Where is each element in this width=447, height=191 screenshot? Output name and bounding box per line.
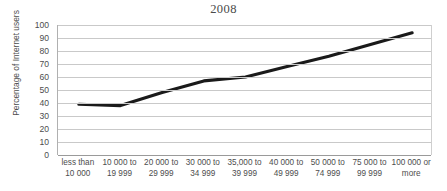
y-tick-label-50: 50 [39,86,49,95]
x-axis-tick-labels: less than 10 00010 000 to 19 99920 000 t… [57,158,432,188]
plot-area [57,25,432,155]
chart-figure: 2008 Percentage of Internet users 010203… [0,0,447,191]
gridline-70 [58,64,431,65]
gridline-30 [58,116,431,117]
y-axis-tick-labels: 0102030405060708090100 [0,25,53,155]
x-tick-label-8: 100 000 or more [382,158,440,179]
gridline-20 [58,129,431,130]
y-tick-label-70: 70 [39,60,49,69]
y-tick-label-80: 80 [39,47,49,56]
y-tick-label-40: 40 [39,99,49,108]
gridline-0 [58,155,431,156]
gridline-100 [58,25,431,26]
gridline-10 [58,142,431,143]
y-tick-label-30: 30 [39,112,49,121]
y-tick-label-60: 60 [39,73,49,82]
y-tick-label-90: 90 [39,34,49,43]
y-tick-label-10: 10 [39,138,49,147]
gridline-40 [58,103,431,104]
data-polyline [79,33,412,106]
gridline-80 [58,51,431,52]
gridline-60 [58,77,431,78]
gridline-50 [58,90,431,91]
gridline-90 [58,38,431,39]
y-tick-label-20: 20 [39,125,49,134]
y-tick-label-100: 100 [35,21,49,30]
chart-title: 2008 [0,2,447,17]
